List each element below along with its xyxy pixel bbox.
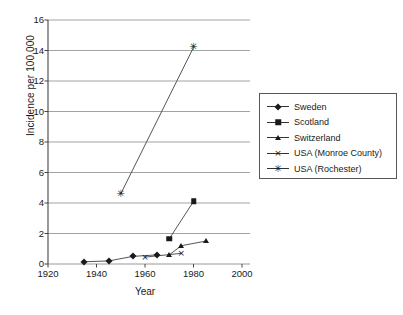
x-tick-label: 1960 [125,268,165,279]
y-tick-label: 4 [26,198,44,208]
legend-marker-diamond-icon [267,101,289,112]
series-line-usa-rochester [121,47,194,193]
legend-label: Switzerland [294,133,341,143]
legend-marker-square-icon [267,117,289,128]
y-tick-label: 14 [26,46,44,56]
legend-item-scotland: Scotland [260,115,396,131]
x-tick-label: 1920 [28,268,68,279]
y-tick-label: 16 [26,15,44,25]
x-axis-title: Year [48,286,242,297]
y-tick-label: 12 [26,76,44,86]
legend-item-sweden: Sweden [260,99,396,115]
legend-marker-cross-icon: × [267,148,289,159]
legend-label: Scotland [294,117,329,127]
x-tick-label: 2000 [222,268,262,279]
y-tick-label: 2 [26,229,44,239]
legend-marker-star-icon: ✳ [267,163,289,174]
legend-label: Sweden [294,102,327,112]
series-line-switzerland [169,241,205,255]
legend-item-switzerland: Switzerland [260,130,396,146]
legend-item-usa-monroe-county: ×USA (Monroe County) [260,146,396,162]
x-tick-label: 1940 [77,268,117,279]
x-tick-label: 1980 [174,268,214,279]
chart-container: Incidence per 100,000 0246810121416 1920… [0,0,403,315]
legend-item-usa-rochester: ✳USA (Rochester) [260,161,396,177]
legend-label: USA (Monroe County) [294,148,382,158]
legend-label: USA (Rochester) [294,164,362,174]
y-tick-label: 8 [26,137,44,147]
series-line-sweden [84,255,157,262]
legend-marker-triangle-icon [267,132,289,143]
y-tick-label: 6 [26,168,44,178]
legend: SwedenScotlandSwitzerland×USA (Monroe Co… [259,93,397,179]
y-tick-label: 10 [26,107,44,117]
